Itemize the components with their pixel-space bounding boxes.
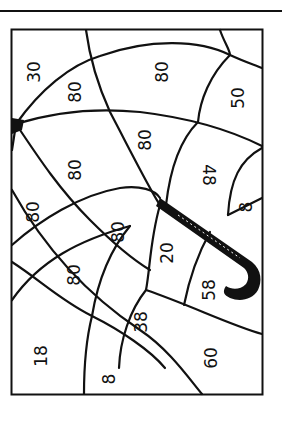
arc-lower-4 (84, 316, 92, 394)
arc-2a (198, 55, 230, 122)
region-label: 58 (199, 279, 219, 301)
region-label: 80 (65, 81, 85, 103)
region-label: 60 (201, 347, 221, 369)
region-label: 80 (65, 159, 85, 181)
region-label: 8 (99, 374, 119, 385)
region-label: 80 (135, 129, 155, 151)
region-label: 48 (199, 164, 219, 186)
umbrella-drawing: 30 80 80 50 80 80 48 8 80 80 20 80 58 38… (0, 0, 282, 422)
region-numbers: 30 80 80 50 80 80 48 8 80 80 20 80 58 38… (23, 61, 256, 384)
region-label: 80 (108, 221, 128, 243)
region-label: 30 (24, 61, 44, 83)
region-label: 80 (152, 61, 172, 83)
region-label: 8 (236, 202, 256, 213)
region-label: 38 (131, 311, 151, 333)
region-label: 20 (157, 242, 177, 264)
canopy-lines (12, 30, 262, 394)
region-label: 80 (64, 264, 84, 286)
region-label: 18 (31, 345, 51, 367)
frame-border (12, 30, 263, 395)
region-label: 80 (23, 201, 43, 223)
arc-2b (166, 122, 198, 205)
region-label: 50 (228, 87, 248, 109)
coloring-page: 30 80 80 50 80 80 48 8 80 80 20 80 58 38… (0, 0, 282, 422)
rib-inner (16, 124, 150, 270)
